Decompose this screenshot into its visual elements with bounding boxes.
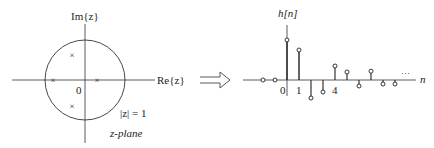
stem-marker	[321, 90, 325, 94]
imag-axis-label: Im{z}	[71, 10, 99, 22]
stem-plot: h[n] n 0 1 4 ···	[243, 7, 426, 100]
h-n-label: h[n]	[278, 7, 298, 19]
ellipsis: ···	[401, 68, 410, 78]
stem-marker	[285, 38, 289, 42]
figure: Im{z} Re{z} 0 |z| = 1 z-plane × × × × h[…	[0, 0, 434, 148]
unit-circle-label: |z| = 1	[120, 107, 147, 119]
stem-marker	[261, 78, 265, 82]
stem-marker	[393, 82, 397, 86]
pole-marker: ×	[69, 50, 74, 60]
double-arrow-right-icon	[200, 72, 230, 88]
real-axis-label: Re{z}	[157, 74, 185, 86]
poles: × × × ×	[50, 50, 99, 111]
stem-marker	[309, 96, 313, 100]
stem-marker	[345, 70, 349, 74]
pole-marker: ×	[94, 75, 99, 85]
tick-label-4: 4	[332, 84, 338, 96]
z-plane-diagram: Im{z} Re{z} 0 |z| = 1 z-plane × × × ×	[12, 10, 185, 143]
stem-marker	[381, 82, 385, 86]
pole-marker: ×	[69, 101, 74, 111]
stem-marker	[357, 84, 361, 88]
tick-label-0: 0	[280, 84, 286, 96]
origin-label: 0	[76, 84, 82, 96]
stem-marker	[297, 48, 301, 52]
stem-marker	[333, 64, 337, 68]
n-axis-label: n	[420, 73, 426, 85]
plane-label: z-plane	[109, 127, 143, 139]
pole-marker: ×	[50, 75, 55, 85]
tick-label-1: 1	[296, 84, 302, 96]
stem-marker	[273, 78, 277, 82]
stem-marker	[369, 69, 373, 73]
